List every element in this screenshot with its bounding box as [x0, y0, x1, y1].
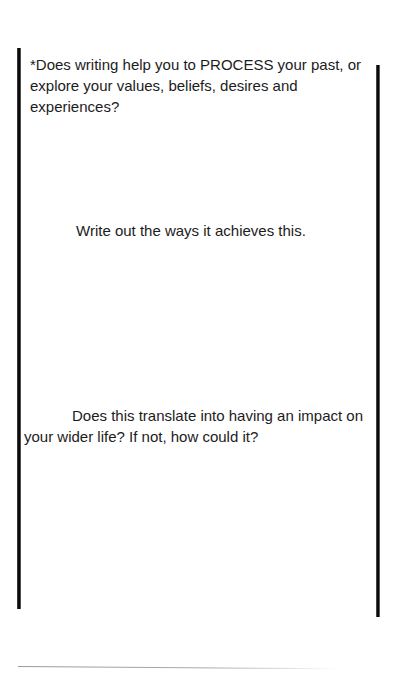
right-border-line — [376, 65, 380, 617]
document-page: *Does writing help you to PROCESS your p… — [0, 0, 400, 674]
bottom-rule — [18, 666, 338, 669]
left-border-line — [17, 48, 21, 609]
prompt-ways: Write out the ways it achieves this. — [76, 220, 376, 241]
prompt-process: *Does writing help you to PROCESS your p… — [30, 54, 370, 117]
prompt-impact: Does this translate into having an impac… — [24, 405, 369, 447]
